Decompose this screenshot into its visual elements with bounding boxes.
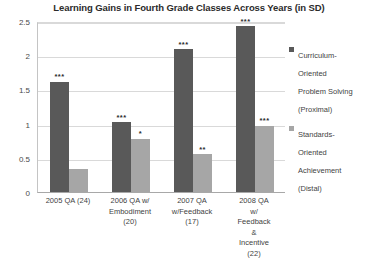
x-tick-label-line: (20) — [109, 217, 151, 228]
bar — [174, 49, 193, 192]
x-tick-label-line: Incentive (22) — [238, 238, 271, 259]
legend-item[interactable]: Curriculum- Oriented Problem Solving (Pr… — [289, 44, 375, 116]
y-tick-label: 0.5 — [19, 154, 30, 163]
bar — [131, 139, 150, 192]
bar — [236, 26, 255, 192]
x-tick-label-line: (17) — [172, 217, 212, 228]
legend-label: Standards- Oriented Achievement (Distal) — [298, 130, 341, 193]
y-tick-label: 2 — [26, 52, 30, 61]
significance-label: *** — [260, 117, 270, 125]
bar — [193, 154, 212, 192]
legend-swatch-icon — [289, 126, 294, 131]
y-tick-label: 2.5 — [19, 18, 30, 27]
significance-label: *** — [241, 18, 251, 26]
bar — [69, 169, 88, 192]
x-tick-label-line: 2005 QA (24) — [46, 196, 91, 207]
legend-swatch-icon — [289, 47, 294, 52]
y-tick-label: 1.5 — [19, 86, 30, 95]
bar — [255, 126, 274, 192]
x-tick-label-line: Embodiment — [109, 207, 151, 218]
x-tick-label: 2005 QA (24) — [46, 196, 91, 207]
significance-label: * — [139, 130, 142, 138]
chart-title: Learning Gains in Fourth Grade Classes A… — [0, 2, 378, 13]
x-tick-label: 2006 QA w/Embodiment(20) — [109, 196, 151, 228]
x-tick-label-line: 2007 QA — [172, 196, 212, 207]
plot-area: ****************** — [37, 22, 285, 193]
x-tick-label-line: Feedback & — [238, 217, 271, 238]
y-axis: 00.511.522.5 — [0, 22, 34, 193]
significance-label: *** — [117, 114, 127, 122]
y-tick-label: 1 — [26, 120, 30, 129]
x-axis: 2005 QA (24)2006 QA w/Embodiment(20)2007… — [37, 196, 285, 241]
x-tick-label-line: 2006 QA w/ — [109, 196, 151, 207]
legend-item[interactable]: Standards- Oriented Achievement (Distal) — [289, 123, 375, 195]
bar — [50, 82, 69, 192]
legend-label: Curriculum- Oriented Problem Solving (Pr… — [298, 51, 353, 114]
x-tick-label-line: 2008 QA w/ — [238, 196, 271, 217]
y-tick-label: 0 — [26, 189, 30, 198]
significance-label: *** — [55, 73, 65, 81]
chart-legend: Curriculum- Oriented Problem Solving (Pr… — [289, 44, 375, 202]
significance-label: *** — [179, 41, 189, 49]
bar — [112, 122, 131, 192]
x-tick-label: 2008 QA w/Feedback &Incentive (22) — [238, 196, 271, 259]
significance-label: ** — [199, 146, 206, 154]
bars-layer: ****************** — [38, 23, 285, 192]
x-tick-label: 2007 QAw/Feedback(17) — [172, 196, 212, 228]
x-tick-label-line: w/Feedback — [172, 207, 212, 218]
